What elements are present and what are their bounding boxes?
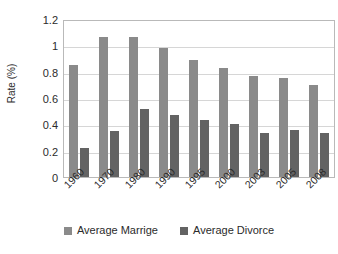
chart-legend: Average MarrigeAverage Divorce [0, 224, 338, 237]
x-tick-cell: 1970 [93, 179, 123, 219]
bar-marriage-1960 [69, 65, 78, 177]
bar-group-2005 [274, 21, 304, 177]
bar-chart: Rate (%) 00.20.40.60.811.2 1960197019801… [0, 0, 338, 254]
bar-group-1960 [64, 21, 94, 177]
bar-group-2008 [304, 21, 334, 177]
bar-group-1995 [184, 21, 214, 177]
x-tick-cell: 2005 [275, 179, 305, 219]
bar-marriage-2005 [279, 78, 288, 177]
legend-swatch-marriage-icon [64, 227, 72, 235]
bar-marriage-1995 [189, 60, 198, 177]
x-tick-cell: 1960 [63, 179, 93, 219]
x-tick-cell: 2000 [214, 179, 244, 219]
y-tick-label: 0.4 [24, 119, 58, 131]
x-tick-cell: 1990 [154, 179, 184, 219]
bar-marriage-2008 [309, 85, 318, 177]
bar-marriage-2003 [249, 76, 258, 177]
x-tick-cell: 1980 [123, 179, 153, 219]
y-axis-title: Rate (%) [6, 54, 17, 114]
bar-group-1990 [154, 21, 184, 177]
bar-marriage-1970 [99, 37, 108, 177]
x-axis-tick-labels: 196019701980199019952000200320052008 [63, 179, 335, 219]
legend-label: Average Marrige [77, 224, 158, 237]
bar-marriage-1990 [159, 48, 168, 177]
y-tick-label: 1.2 [24, 14, 58, 26]
bar-divorce-1980 [140, 109, 149, 177]
plot-area [63, 20, 335, 178]
y-tick-label: 1 [24, 40, 58, 52]
y-tick-label: 0.6 [24, 93, 58, 105]
x-tick-cell: 2008 [305, 179, 335, 219]
x-tick-cell: 1995 [184, 179, 214, 219]
x-tick-cell: 2003 [244, 179, 274, 219]
legend-entry-marriage[interactable]: Average Marrige [64, 224, 158, 237]
legend-swatch-divorce-icon [180, 227, 188, 235]
bar-marriage-1980 [129, 37, 138, 177]
bar-group-2000 [214, 21, 244, 177]
legend-entry-divorce[interactable]: Average Divorce [180, 224, 274, 237]
bar-group-1970 [94, 21, 124, 177]
y-tick-label: 0.2 [24, 146, 58, 158]
y-tick-label: 0.8 [24, 67, 58, 79]
bar-group-2003 [244, 21, 274, 177]
bar-marriage-2000 [219, 68, 228, 177]
y-tick-label: 0 [24, 172, 58, 184]
legend-label: Average Divorce [193, 224, 274, 237]
bars-layer [64, 21, 334, 177]
bar-group-1980 [124, 21, 154, 177]
y-axis-tick-labels: 00.20.40.60.811.2 [24, 14, 58, 178]
